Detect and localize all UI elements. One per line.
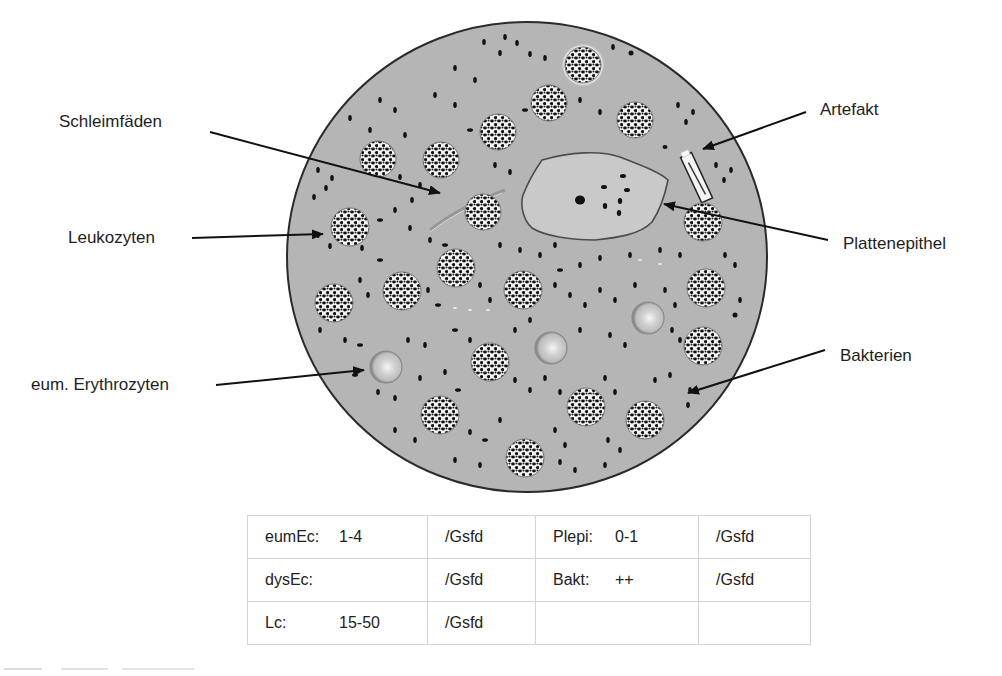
value-eumEc: 1-4 [339, 528, 362, 546]
key-eumEc: eumEc: [265, 528, 339, 546]
cell-dysEc: dysEc: [248, 559, 428, 602]
cell-bakt: Bakt:++ [536, 559, 699, 602]
table-row: Lc:15-50 /Gsfd [248, 602, 811, 645]
microscope-field [287, 22, 767, 492]
leukocyte [561, 43, 605, 87]
unit-cell: /Gsfd [699, 559, 811, 602]
empty-cell [536, 602, 699, 645]
label-erythrozyten: eum. Erythrozyten [31, 375, 169, 395]
value-bakt: ++ [615, 571, 634, 589]
value-plepi: 0-1 [615, 528, 638, 546]
unit-cell: /Gsfd [699, 516, 811, 559]
label-artefakt: Artefakt [820, 100, 879, 120]
value-lc: 15-50 [339, 614, 380, 632]
unit-cell: /Gsfd [428, 516, 536, 559]
label-plattenepithel: Plattenepithel [843, 234, 946, 254]
key-dysEc: dysEc: [265, 571, 339, 589]
key-plepi: Plepi: [553, 528, 615, 546]
table-row: dysEc: /Gsfd Bakt:++ /Gsfd [248, 559, 811, 602]
cell-eumEc: eumEc:1-4 [248, 516, 428, 559]
unit-cell: /Gsfd [428, 559, 536, 602]
unit-cell: /Gsfd [428, 602, 536, 645]
empty-cell [699, 602, 811, 645]
label-bakterien: Bakterien [840, 346, 912, 366]
cell-plepi: Plepi:0-1 [536, 516, 699, 559]
label-schleimfaeden: Schleimfäden [59, 112, 162, 132]
label-leukozyten: Leukozyten [68, 228, 155, 248]
cropped-caption [4, 668, 194, 670]
key-lc: Lc: [265, 614, 339, 632]
cell-lc: Lc:15-50 [248, 602, 428, 645]
key-bakt: Bakt: [553, 571, 615, 589]
results-table: eumEc:1-4 /Gsfd Plepi:0-1 /Gsfd dysEc: /… [247, 515, 811, 645]
table-row: eumEc:1-4 /Gsfd Plepi:0-1 /Gsfd [248, 516, 811, 559]
